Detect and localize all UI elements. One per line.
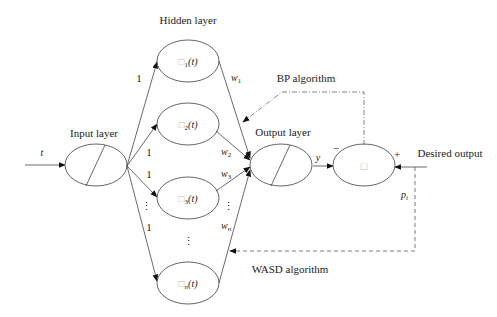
input-weight-3: 1 <box>146 168 152 180</box>
output-layer-label: Output layer <box>255 126 311 138</box>
input-signal-label: t <box>41 147 44 158</box>
input-weight-n: 1 <box>146 221 152 233</box>
edge-input-hidden-1 <box>127 62 157 166</box>
hidden-nodes-ellipsis: ⋮ <box>183 235 194 247</box>
edge-input-hidden-n <box>127 166 157 281</box>
output-weight-n: wn <box>221 220 232 233</box>
input-layer-node <box>65 144 127 186</box>
output-layer-node <box>250 144 312 186</box>
input-weight-2: 1 <box>146 146 152 158</box>
minus-sign: − <box>333 142 339 154</box>
edge-input-hidden-2 <box>127 124 157 166</box>
desired-signal-label: pi <box>400 189 408 202</box>
edge-input-hidden-3 <box>127 166 157 197</box>
hidden-layer-label: Hidden layer <box>159 14 216 26</box>
hidden-node-1: □1(t) <box>157 40 219 82</box>
neural-network-diagram: Hidden layer Input layer Output layer BP… <box>0 0 497 317</box>
hidden-node-n: □n(t) <box>157 262 219 304</box>
output-signal-label: y <box>315 152 321 163</box>
hidden-node-2: □2(t) <box>157 103 219 145</box>
svg-text:□: □ <box>361 160 368 172</box>
output-weight-ellipsis: ⋮ <box>223 200 234 212</box>
output-weight-3: w3 <box>221 168 232 181</box>
plus-sign: + <box>394 148 400 160</box>
desired-output-label: Desired output <box>417 147 482 159</box>
wasd-feedback-path <box>230 167 415 251</box>
hidden-node-3: □3(t) <box>157 177 219 219</box>
input-weight-ellipsis: ⋮ <box>141 200 152 212</box>
error-node: □ <box>333 144 395 186</box>
output-weight-2: w2 <box>221 146 232 159</box>
input-weight-1: 1 <box>136 72 142 84</box>
wasd-algorithm-label: WASD algorithm <box>252 263 329 275</box>
input-layer-label: Input layer <box>70 127 118 139</box>
bp-algorithm-label: BP algorithm <box>277 72 336 84</box>
output-weight-1: w1 <box>231 72 242 85</box>
